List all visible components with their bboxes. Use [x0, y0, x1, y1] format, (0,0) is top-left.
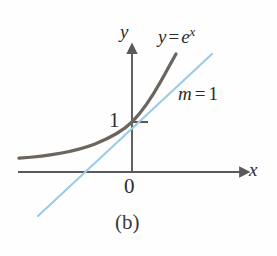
slope-label: m=1 [178, 84, 218, 103]
x-axis-label: x [249, 160, 257, 179]
y-tick-label-one: 1 [109, 110, 120, 131]
figure-caption: (b) [115, 212, 140, 233]
slope-symbol: m [178, 83, 192, 104]
curve-equation-base: e [181, 26, 189, 47]
origin-label: 0 [124, 176, 135, 197]
slope-value: 1 [208, 83, 218, 104]
slope-equals: = [195, 83, 206, 104]
curve-equation-exponent: x [190, 24, 196, 39]
exponential-curve [19, 54, 176, 158]
y-axis-label: y [120, 22, 128, 41]
curve-equation-lhs: y [158, 26, 166, 47]
curve-equation-equals: = [168, 26, 179, 47]
curve-equation-label: y=ex [158, 26, 195, 46]
figure-container: y x y=ex m=1 1 0 (b) [0, 0, 277, 256]
